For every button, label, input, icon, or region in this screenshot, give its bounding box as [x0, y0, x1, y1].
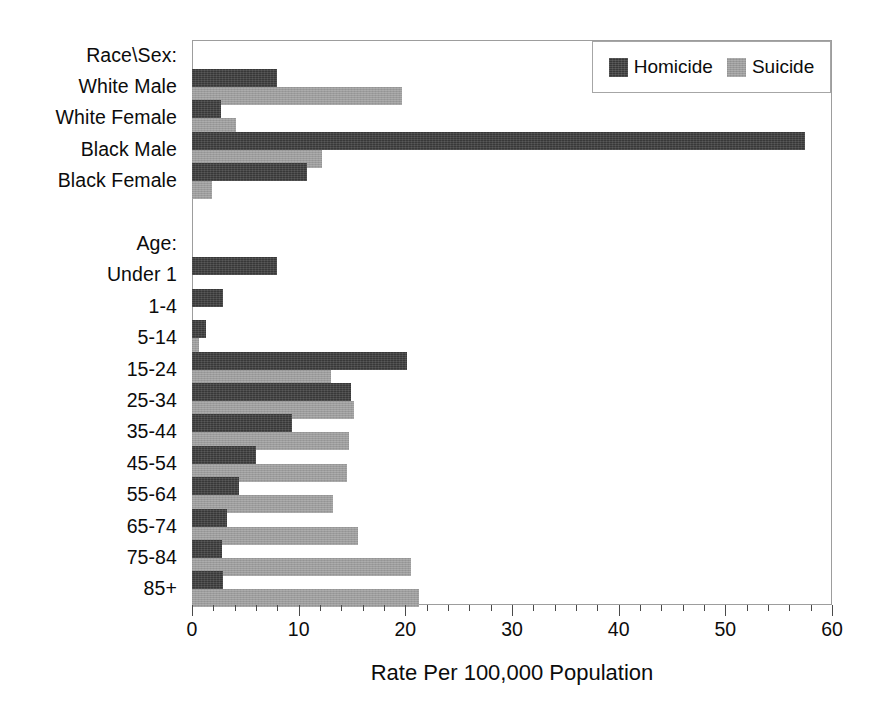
- x-tick-2: [213, 605, 214, 611]
- bar-homicide-row-14: [192, 477, 239, 495]
- bar-homicide-row-7: [192, 257, 277, 275]
- x-tick-36: [576, 605, 577, 611]
- category-axis-labels: Race\Sex:White MaleWhite FemaleBlack Mal…: [0, 40, 185, 605]
- category-label-cat-1-4: 1-4: [149, 297, 177, 317]
- x-tick-38: [597, 605, 598, 611]
- x-tick-60: [832, 605, 833, 616]
- x-tick-30: [512, 605, 513, 616]
- category-label-cat-black-male: Black Male: [81, 140, 177, 160]
- x-axis-tick-labels: 0102030405060: [0, 618, 879, 648]
- x-tick-label-30: 30: [501, 618, 523, 641]
- x-tick-26: [469, 605, 470, 611]
- category-label-cat-85+: 85+: [144, 579, 177, 599]
- category-label-cat-25-34: 25-34: [127, 391, 177, 411]
- category-label-cat-black-female: Black Female: [58, 171, 177, 191]
- chart-legend: Homicide Suicide: [592, 41, 831, 93]
- bar-suicide-row-4: [192, 181, 212, 199]
- x-tick-24: [448, 605, 449, 611]
- bar-suicide-row-16: [192, 558, 411, 576]
- bar-chart: Race\Sex:White MaleWhite FemaleBlack Mal…: [0, 0, 879, 725]
- x-tick-16: [363, 605, 364, 611]
- x-tick-20: [405, 605, 406, 616]
- x-tick-32: [533, 605, 534, 611]
- bar-homicide-row-16: [192, 540, 222, 558]
- bar-homicide-row-2: [192, 100, 221, 118]
- category-label-cat-white-male: White Male: [78, 77, 177, 97]
- x-tick-28: [491, 605, 492, 611]
- x-tick-48: [704, 605, 705, 611]
- x-tick-label-0: 0: [187, 618, 198, 641]
- x-tick-0: [192, 605, 193, 616]
- bar-homicide-row-13: [192, 446, 256, 464]
- x-tick-label-60: 60: [821, 618, 843, 641]
- x-tick-34: [555, 605, 556, 611]
- x-tick-18: [384, 605, 385, 611]
- x-tick-46: [683, 605, 684, 611]
- x-tick-6: [256, 605, 257, 611]
- category-label-cat-race-sex: Race\Sex:: [86, 46, 177, 66]
- bar-homicide-row-8: [192, 289, 223, 307]
- legend-entry-homicide: Homicide: [609, 56, 713, 78]
- legend-entry-suicide: Suicide: [727, 56, 814, 78]
- x-tick-40: [619, 605, 620, 616]
- category-label-cat-75-84: 75-84: [127, 548, 177, 568]
- x-tick-22: [427, 605, 428, 611]
- bar-homicide-row-12: [192, 414, 292, 432]
- category-label-cat-5-14: 5-14: [138, 328, 177, 348]
- category-label-cat-age: Age:: [136, 234, 177, 254]
- x-tick-10: [299, 605, 300, 616]
- category-label-cat-45-54: 45-54: [127, 454, 177, 474]
- category-label-cat-white-female: White Female: [56, 108, 178, 128]
- homicide-swatch-icon: [609, 58, 628, 77]
- bar-homicide-row-9: [192, 320, 206, 338]
- category-label-cat-15-24: 15-24: [127, 360, 177, 380]
- x-tick-4: [235, 605, 236, 611]
- x-tick-12: [320, 605, 321, 611]
- bars-layer: [192, 40, 832, 605]
- x-tick-label-40: 40: [608, 618, 630, 641]
- category-label-cat-under-1: Under 1: [107, 265, 177, 285]
- bar-homicide-row-1: [192, 69, 277, 87]
- legend-label-homicide: Homicide: [634, 56, 713, 78]
- x-tick-58: [811, 605, 812, 611]
- x-tick-label-50: 50: [714, 618, 736, 641]
- category-label-cat-65-74: 65-74: [127, 517, 177, 537]
- bar-homicide-row-15: [192, 509, 227, 527]
- bar-homicide-row-17: [192, 571, 223, 589]
- x-axis-ticks: [192, 605, 832, 617]
- x-tick-52: [747, 605, 748, 611]
- category-label-cat-55-64: 55-64: [127, 485, 177, 505]
- legend-label-suicide: Suicide: [752, 56, 814, 78]
- x-tick-44: [661, 605, 662, 611]
- bar-homicide-row-4: [192, 163, 307, 181]
- x-tick-label-10: 10: [288, 618, 310, 641]
- bar-homicide-row-10: [192, 352, 407, 370]
- x-tick-label-20: 20: [394, 618, 416, 641]
- bar-homicide-row-11: [192, 383, 351, 401]
- bar-homicide-row-3: [192, 132, 805, 150]
- x-tick-56: [789, 605, 790, 611]
- x-tick-50: [725, 605, 726, 616]
- suicide-swatch-icon: [727, 58, 746, 77]
- x-tick-42: [640, 605, 641, 611]
- x-axis-title: Rate Per 100,000 Population: [192, 660, 832, 686]
- x-tick-54: [768, 605, 769, 611]
- category-label-cat-35-44: 35-44: [127, 422, 177, 442]
- bar-suicide-row-1: [192, 87, 402, 105]
- x-tick-14: [341, 605, 342, 611]
- x-tick-8: [277, 605, 278, 611]
